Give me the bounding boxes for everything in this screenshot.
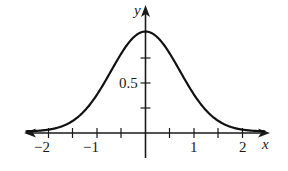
x-tick-label-2: 2	[239, 139, 247, 155]
y-axis-label: y	[132, 2, 141, 18]
x-axis	[24, 128, 270, 138]
x-tick-label-neg1: −1	[83, 139, 99, 155]
x-tick-label-1: 1	[190, 139, 198, 155]
y-axis	[141, 5, 151, 158]
x-tick-label-neg2: −2	[34, 139, 50, 155]
x-axis-label: x	[261, 136, 269, 152]
bell-curve-chart: y x 0.5 −2 −1 1 2	[0, 0, 288, 171]
y-tick-label-0.5: 0.5	[119, 75, 138, 91]
